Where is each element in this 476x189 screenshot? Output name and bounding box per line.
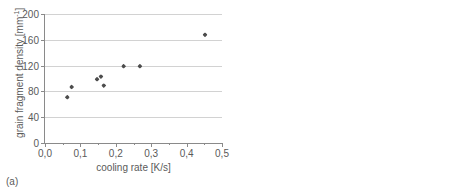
y-axis-tick-label: 40 (28, 112, 39, 123)
x-axis-title-a: cooling rate [K/s] (96, 162, 170, 173)
y-axis-tick-label: 0 (33, 138, 39, 149)
panel-caption-a: (a) (6, 176, 18, 187)
gridline-horizontal (45, 117, 222, 118)
x-axis-tick (45, 143, 46, 147)
y-axis-tick-label: 200 (22, 9, 39, 20)
y-axis-tick-label: 160 (22, 34, 39, 45)
x-axis-tick (116, 143, 117, 147)
y-axis-title-a: grain fragment density [mm-1] (13, 7, 25, 137)
x-axis-tick (222, 143, 223, 147)
x-axis-minor-tick (204, 143, 205, 145)
data-point-measurements (95, 77, 100, 82)
data-point-measurements (101, 83, 106, 88)
y-axis-tick (41, 14, 45, 15)
x-axis-tick (151, 143, 152, 147)
data-point-measurements (65, 95, 70, 100)
y-axis-tick-label: 80 (28, 86, 39, 97)
panel-b: measurements simulation shape factor coo… (238, 0, 476, 189)
y-axis-tick (41, 117, 45, 118)
y-axis-tick (41, 40, 45, 41)
data-point-measurements (98, 74, 103, 79)
data-point-measurements (137, 64, 142, 69)
x-axis-minor-tick (63, 143, 64, 145)
gridline-horizontal (45, 14, 222, 15)
x-axis-tick-label: 0,4 (180, 148, 194, 159)
x-axis-tick (187, 143, 188, 147)
gridline-horizontal (45, 66, 222, 67)
x-axis-tick (80, 143, 81, 147)
data-point-measurements (203, 32, 208, 37)
y-axis-tick (41, 66, 45, 67)
panel-a: grain fragment density [mm-1] cooling ra… (0, 0, 238, 189)
gridline-horizontal (45, 91, 222, 92)
x-axis-tick-label: 0,5 (215, 148, 229, 159)
x-axis-tick-label: 0,1 (73, 148, 87, 159)
y-axis-tick (41, 91, 45, 92)
x-axis-minor-tick (169, 143, 170, 145)
x-axis-tick-label: 0,0 (38, 148, 52, 159)
x-axis-tick-label: 0,3 (144, 148, 158, 159)
x-axis-minor-tick (134, 143, 135, 145)
figure-container: grain fragment density [mm-1] cooling ra… (0, 0, 476, 189)
y-axis-tick-label: 120 (22, 60, 39, 71)
x-axis-tick-label: 0,2 (109, 148, 123, 159)
x-axis-minor-tick (98, 143, 99, 145)
plot-area-a: grain fragment density [mm-1] cooling ra… (44, 14, 222, 144)
gridline-horizontal (45, 40, 222, 41)
data-point-measurements (121, 64, 126, 69)
data-point-measurements (69, 84, 74, 89)
